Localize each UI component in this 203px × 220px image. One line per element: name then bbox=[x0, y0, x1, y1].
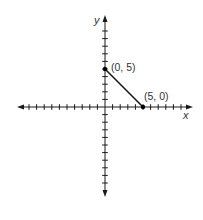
y-axis bbox=[102, 15, 108, 197]
point-5-0-label: (5, 0) bbox=[144, 90, 169, 102]
x-axis-label: x bbox=[182, 109, 189, 121]
line-segment bbox=[105, 69, 143, 107]
y-axis-down-arrow-icon bbox=[103, 190, 108, 197]
x-axis-left-arrow-icon bbox=[17, 105, 24, 110]
y-axis-up-arrow-icon bbox=[103, 15, 108, 22]
point-0-5 bbox=[103, 67, 107, 71]
coordinate-graph: y x (0, 5) (5, 0) bbox=[0, 0, 203, 220]
y-axis-label: y bbox=[93, 14, 101, 26]
point-0-5-label: (0, 5) bbox=[111, 61, 136, 73]
point-5-0 bbox=[141, 105, 145, 109]
